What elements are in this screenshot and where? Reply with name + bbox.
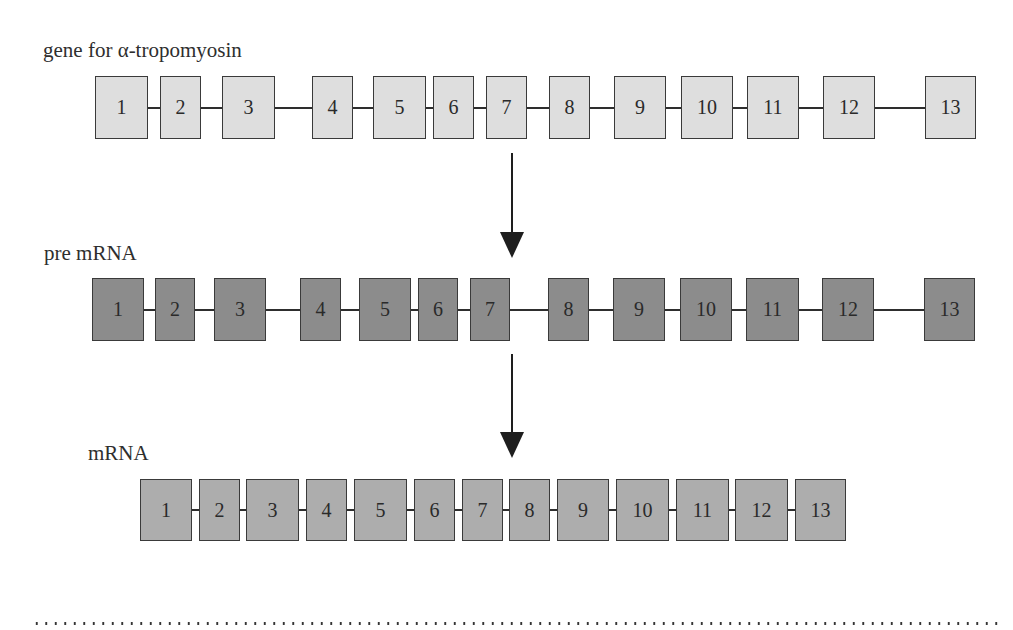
intron-connector (788, 509, 795, 511)
exon-box: 4 (306, 479, 347, 541)
mrna-label: mRNA (88, 443, 149, 464)
intron-connector (665, 309, 680, 311)
exon-box: 13 (924, 278, 975, 341)
intron-connector (510, 309, 548, 311)
exon-box: 5 (373, 76, 426, 139)
intron-connector (353, 107, 373, 109)
intron-connector (669, 509, 676, 511)
exon-box: 11 (747, 76, 799, 139)
intron-connector (609, 509, 616, 511)
intron-connector (666, 107, 681, 109)
intron-connector (875, 107, 925, 109)
intron-connector (201, 107, 222, 109)
exon-box: 2 (160, 76, 201, 139)
exon-box: 2 (155, 278, 195, 341)
intron-connector (195, 309, 214, 311)
intron-connector (799, 309, 822, 311)
intron-connector (266, 309, 300, 311)
intron-connector (799, 107, 823, 109)
intron-connector (458, 309, 470, 311)
splicing-arrow (500, 354, 524, 458)
exon-box: 8 (509, 479, 550, 541)
intron-connector (732, 309, 746, 311)
intron-connector (589, 309, 613, 311)
exon-box: 10 (616, 479, 669, 541)
exon-box: 13 (925, 76, 976, 139)
intron-connector (341, 309, 359, 311)
arrow-down-icon (500, 232, 524, 258)
exon-box: 10 (680, 278, 732, 341)
pre-mrna-label: pre mRNA (44, 243, 137, 264)
exon-box: 1 (92, 278, 144, 341)
exon-box: 1 (95, 76, 148, 139)
exon-box: 7 (462, 479, 503, 541)
exon-box: 8 (548, 278, 589, 341)
intron-connector (411, 309, 418, 311)
exon-box: 5 (354, 479, 407, 541)
exon-box: 10 (681, 76, 733, 139)
mrna-exon-row: 12345678910111213 (0, 479, 1013, 541)
arrow-shaft (511, 153, 513, 238)
arrow-down-icon (500, 432, 524, 458)
intron-connector (192, 509, 199, 511)
intron-connector (426, 107, 433, 109)
exon-box: 13 (795, 479, 846, 541)
exon-box: 9 (614, 76, 666, 139)
exon-box: 7 (470, 278, 510, 341)
exon-box: 9 (613, 278, 665, 341)
exon-box: 12 (735, 479, 788, 541)
arrow-shaft (511, 354, 513, 438)
exon-box: 6 (418, 278, 458, 341)
exon-box: 4 (300, 278, 341, 341)
intron-connector (874, 309, 924, 311)
intron-connector (407, 509, 414, 511)
exon-box: 8 (549, 76, 590, 139)
exon-box: 11 (746, 278, 799, 341)
intron-connector (527, 107, 549, 109)
exon-box: 12 (823, 76, 875, 139)
exon-box: 1 (140, 479, 192, 541)
exon-box: 3 (222, 76, 275, 139)
exon-box: 9 (557, 479, 609, 541)
exon-box: 3 (246, 479, 299, 541)
transcription-arrow (500, 153, 524, 258)
pre-mrna-exon-row: 12345678910111213 (0, 278, 1013, 341)
intron-connector (550, 509, 557, 511)
exon-box: 5 (359, 278, 411, 341)
exon-box: 2 (199, 479, 240, 541)
gene-exon-row: 12345678910111213 (0, 76, 1013, 139)
gene-label: gene for α-tropomyosin (43, 40, 242, 61)
exon-box: 6 (414, 479, 455, 541)
intron-connector (347, 509, 354, 511)
intron-connector (455, 509, 462, 511)
intron-connector (733, 107, 747, 109)
exon-box: 11 (676, 479, 729, 541)
dotted-separator (32, 622, 1000, 625)
intron-connector (474, 107, 486, 109)
intron-connector (275, 107, 312, 109)
intron-connector (590, 107, 614, 109)
exon-box: 7 (486, 76, 527, 139)
intron-connector (144, 309, 155, 311)
exon-box: 12 (822, 278, 874, 341)
intron-connector (299, 509, 306, 511)
exon-box: 3 (214, 278, 266, 341)
exon-box: 4 (312, 76, 353, 139)
intron-connector (148, 107, 160, 109)
exon-box: 6 (433, 76, 474, 139)
